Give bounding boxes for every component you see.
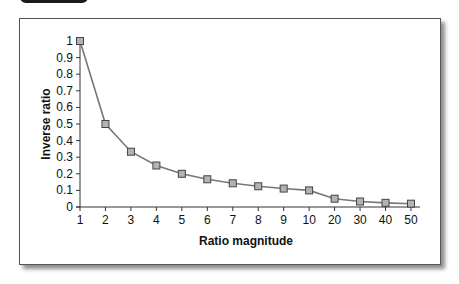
x-axis-title: Ratio magnitude: [199, 234, 293, 248]
y-tick-label: 0.5: [56, 117, 73, 131]
x-tick-label: 30: [353, 213, 367, 227]
y-tick-label: 0.7: [56, 84, 73, 98]
data-point-marker: [280, 185, 287, 192]
data-series: [77, 38, 415, 208]
x-tick-label: 40: [379, 213, 393, 227]
data-point-marker: [255, 183, 262, 190]
x-tick-label: 4: [153, 213, 160, 227]
data-point-marker: [407, 200, 414, 207]
y-tick-label: 0.1: [56, 183, 73, 197]
data-point-marker: [77, 38, 84, 45]
x-tick-label: 2: [102, 213, 109, 227]
x-tick-label: 20: [328, 213, 342, 227]
x-tick-label: 3: [128, 213, 135, 227]
x-tick-label: 7: [229, 213, 236, 227]
y-tick-label: 0.6: [56, 100, 73, 114]
x-tick-label: 10: [302, 213, 316, 227]
x-tick-label: 1: [77, 213, 84, 227]
y-axis: 00.10.20.30.40.50.60.70.80.91: [56, 34, 80, 214]
x-tick-label: 5: [178, 213, 185, 227]
y-tick-label: 0.4: [56, 134, 73, 148]
line-chart: 00.10.20.30.40.50.60.70.80.91 1234567891…: [0, 0, 459, 284]
data-point-marker: [204, 176, 211, 183]
data-point-marker: [331, 195, 338, 202]
data-point-marker: [127, 148, 134, 155]
data-point-marker: [153, 162, 160, 169]
y-tick-label: 0.3: [56, 150, 73, 164]
y-tick-label: 0: [66, 200, 73, 214]
data-point-marker: [306, 187, 313, 194]
x-tick-label: 6: [204, 213, 211, 227]
y-axis-title: Inverse ratio: [39, 88, 53, 159]
data-point-marker: [229, 180, 236, 187]
y-tick-label: 1: [66, 34, 73, 48]
x-tick-label: 9: [280, 213, 287, 227]
data-point-marker: [382, 199, 389, 206]
data-point-marker: [102, 121, 109, 128]
data-point-marker: [178, 170, 185, 177]
data-point-marker: [357, 198, 364, 205]
y-tick-label: 0.2: [56, 167, 73, 181]
x-tick-label: 50: [404, 213, 418, 227]
x-tick-label: 8: [255, 213, 262, 227]
x-axis: 1234567891020304050: [76, 207, 420, 227]
y-tick-label: 0.8: [56, 67, 73, 81]
y-tick-label: 0.9: [56, 51, 73, 65]
